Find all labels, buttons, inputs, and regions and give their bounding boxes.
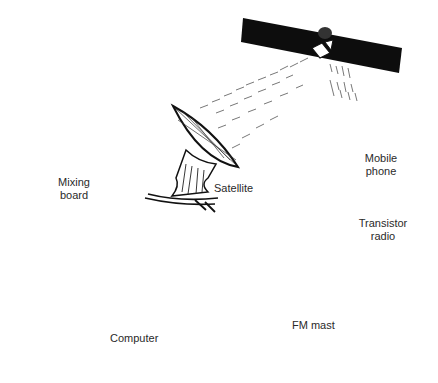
satellite-icon [241,18,402,73]
label-fm-mast: FM mast [292,319,335,332]
label-line: Transistor [356,217,410,230]
label-line: Mixing [54,176,94,189]
label-mixing-board: Mixing board [54,176,94,202]
label-mobile-phone: Mobile phone [358,152,404,178]
label-line: board [54,189,94,202]
label-computer: Computer [110,332,158,345]
label-transistor-radio: Transistor radio [356,217,410,243]
label-satellite: Satellite [214,182,253,195]
broadcast-diagram: Mixing board Satellite Mobile phone Tran… [0,0,438,383]
label-line: Mobile [358,152,404,165]
signal-beam-icon [200,58,357,148]
satellite-dish-icon [145,106,238,212]
label-line: radio [356,230,410,243]
label-line: phone [358,165,404,178]
